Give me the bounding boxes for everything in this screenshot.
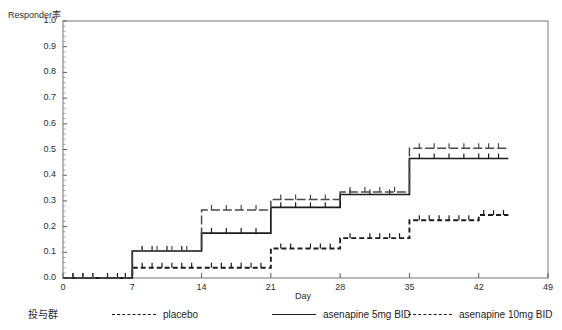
x-tick-label: 28 (327, 282, 353, 292)
legend-swatch-10mg-icon (408, 310, 452, 320)
legend-entry-10mg: asenapine 10mg BID (408, 305, 552, 321)
y-tick-label: 0.5 (30, 144, 56, 154)
legend-swatch-5mg-icon (272, 310, 316, 320)
y-tick-label: 0.7 (30, 92, 56, 102)
legend-label: asenapine 5mg BID (323, 309, 411, 320)
series-asenapine-10mg-bid (63, 143, 508, 278)
y-tick-label: 0.8 (30, 66, 56, 76)
responder-rate-chart: Responder率 Day 0.00.10.20.30.40.50.60.70… (0, 0, 562, 330)
plot-frame (63, 21, 548, 278)
series-asenapine-5mg-bid (63, 153, 508, 278)
legend-title: 投与群 (28, 306, 58, 321)
legend-label: placebo (163, 309, 198, 320)
legend-entry-5mg: asenapine 5mg BID (272, 305, 411, 321)
legend-entry-placebo: placebo (112, 305, 198, 321)
step-line (63, 158, 508, 278)
x-tick-label: 42 (466, 282, 492, 292)
y-tick-label: 0.0 (30, 272, 56, 282)
legend-label: asenapine 10mg BID (459, 309, 552, 320)
x-tick-label: 21 (258, 282, 284, 292)
step-line (63, 215, 508, 278)
x-tick-label: 0 (50, 282, 76, 292)
y-tick-label: 0.6 (30, 118, 56, 128)
plot-area (0, 0, 562, 330)
y-tick-label: 0.9 (30, 41, 56, 51)
x-tick-label: 49 (535, 282, 561, 292)
series-placebo (63, 210, 508, 278)
chart-legend: 投与群 placeboasenapine 5mg BIDasenapine 10… (0, 303, 562, 325)
x-tick-label: 14 (189, 282, 215, 292)
y-tick-label: 0.3 (30, 195, 56, 205)
x-axis-title: Day (295, 291, 311, 301)
y-tick-label: 1.0 (30, 15, 56, 25)
y-tick-label: 0.1 (30, 246, 56, 256)
step-line (63, 148, 508, 278)
x-tick-label: 35 (396, 282, 422, 292)
x-tick-label: 7 (119, 282, 145, 292)
legend-swatch-placebo-icon (112, 310, 156, 320)
y-tick-label: 0.2 (30, 221, 56, 231)
y-tick-label: 0.4 (30, 169, 56, 179)
